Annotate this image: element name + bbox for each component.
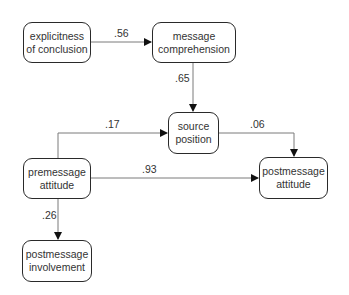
node-label: explicitness — [30, 30, 84, 42]
node-label: attitude — [276, 178, 310, 190]
node-postmessage-attitude: postmessageattitude — [259, 157, 328, 199]
coef-explicitness-comprehension: .56 — [114, 27, 129, 39]
coef-preattitude-source: .17 — [105, 118, 120, 130]
node-label: attitude — [40, 179, 74, 191]
node-source-position: sourceposition — [168, 112, 219, 154]
coef-preattitude-involvement: .26 — [42, 209, 57, 221]
node-label: source — [178, 120, 210, 132]
node-label: comprehension — [158, 43, 230, 55]
node-message-comprehension: messagecomprehension — [152, 22, 236, 63]
node-label: premessage — [28, 166, 86, 178]
node-label: postmessage — [26, 248, 88, 260]
node-label: message — [173, 30, 216, 42]
node-label: involvement — [29, 261, 85, 273]
node-label: postmessage — [262, 165, 324, 177]
node-label: position — [175, 133, 211, 145]
coef-source-postattitude: .06 — [250, 118, 265, 130]
node-premessage-attitude: premessageattitude — [23, 158, 91, 199]
edge-source-postattitude — [218, 133, 294, 156]
node-label: of conclusion — [26, 43, 87, 55]
edge-preattitude-source — [58, 133, 167, 158]
node-postmessage-involvement: postmessageinvolvement — [22, 240, 92, 282]
coef-comprehension-source: .65 — [175, 72, 190, 84]
node-explicitness-of-conclusion: explicitnessof conclusion — [23, 22, 91, 63]
coef-preattitude-postattitude: .93 — [142, 163, 157, 175]
